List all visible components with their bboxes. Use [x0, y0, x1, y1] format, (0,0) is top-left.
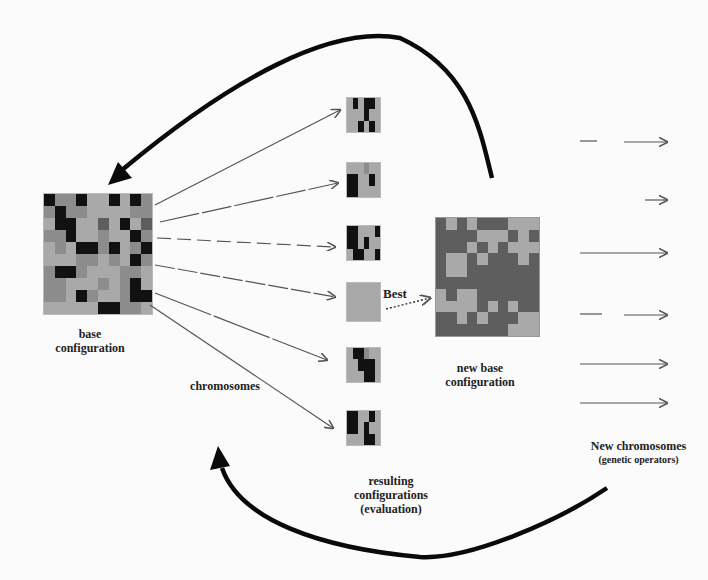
new-chromosome-arrows	[580, 141, 667, 403]
feedback-curve-top	[122, 36, 492, 178]
diagram-canvas: base configuration chromosomes Best new …	[0, 0, 708, 580]
resulting-configurations-label: resulting configurations (evaluation)	[336, 475, 446, 516]
chromosomes-label: chromosomes	[170, 380, 280, 394]
best-label: Best	[383, 287, 407, 302]
arrow-to-chromosome-6	[150, 305, 333, 428]
new-base-configuration-label: new base configuration	[430, 362, 530, 390]
arrow-to-chromosome-3	[157, 238, 335, 247]
arrow-to-chromosome-4	[155, 265, 335, 297]
arrow-to-chromosome-5	[155, 293, 327, 360]
base-configuration-label: base configuration	[40, 328, 140, 356]
feedback-arrowhead-bottom	[210, 446, 230, 470]
new-chromosomes-label: New chromosomes (genetic operators)	[576, 440, 701, 465]
